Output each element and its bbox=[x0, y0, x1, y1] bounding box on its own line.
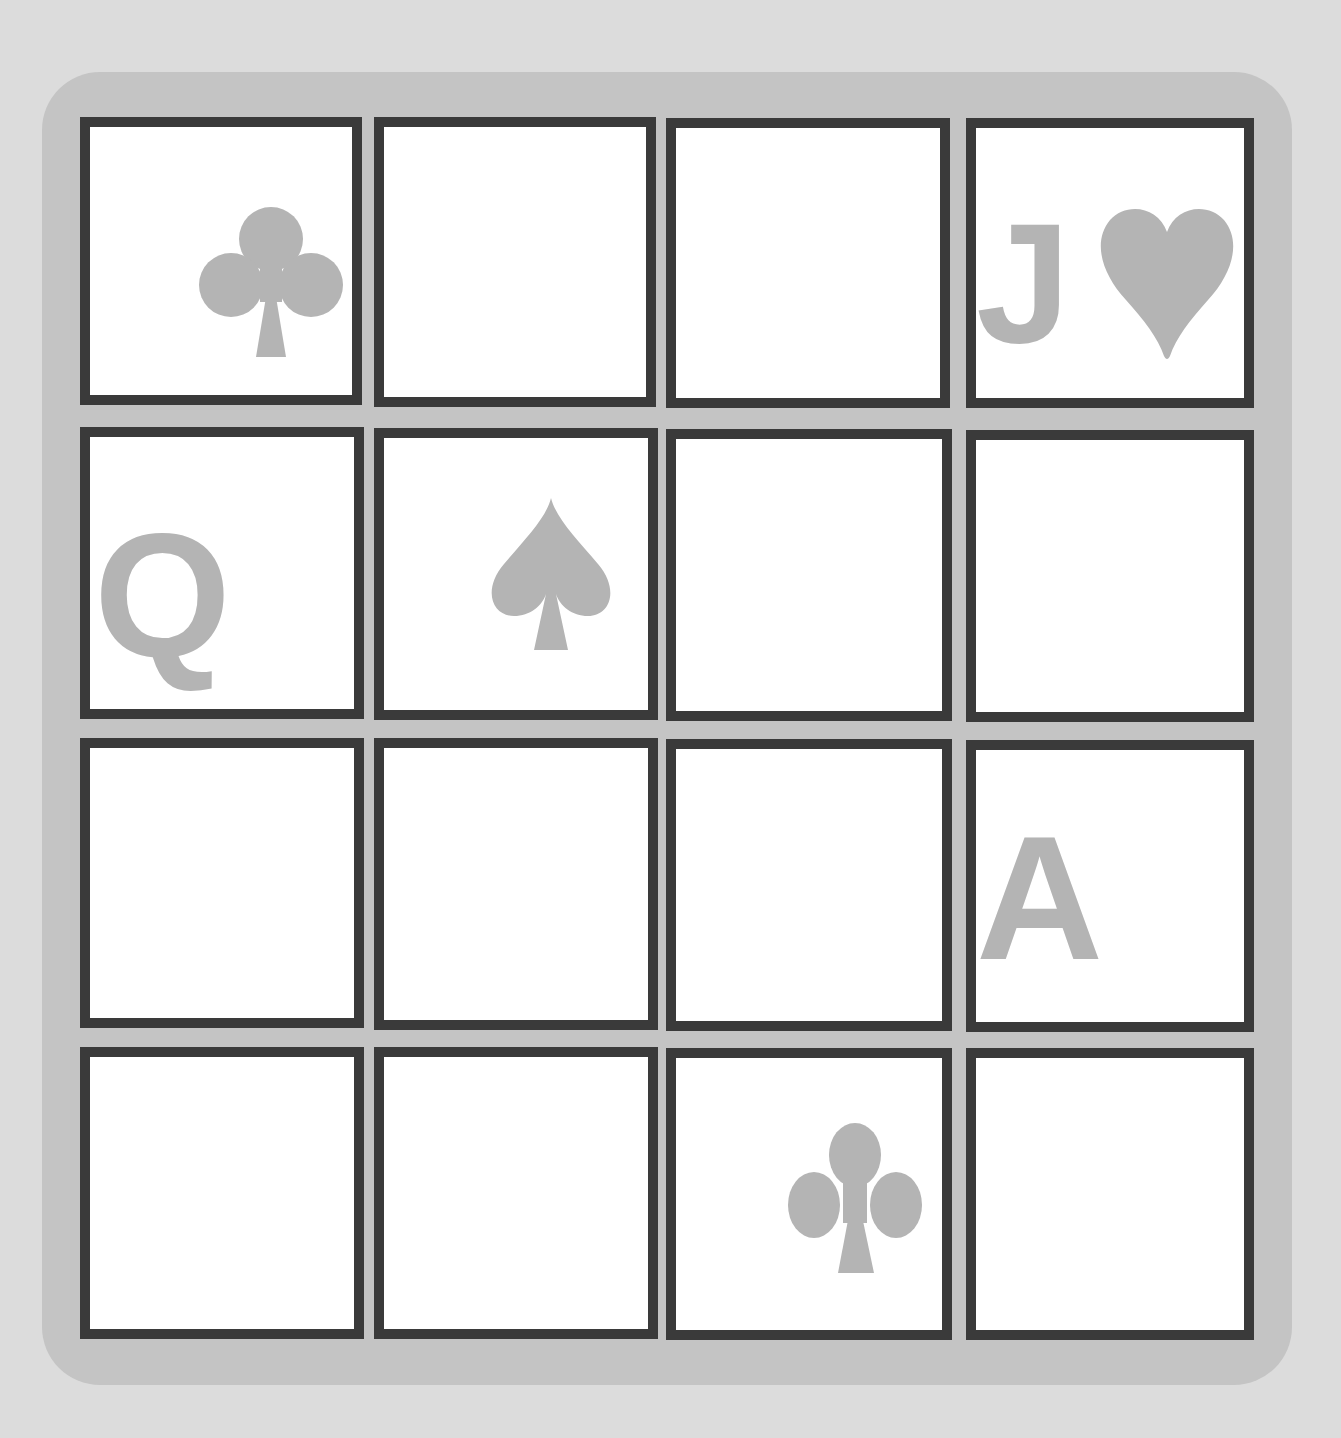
cell-r2-c3[interactable]: A bbox=[966, 740, 1254, 1032]
cell-r3-c2[interactable] bbox=[666, 1048, 952, 1340]
cell-r1-c1[interactable] bbox=[374, 428, 658, 720]
club-icon bbox=[198, 207, 348, 362]
cell-r0-c0[interactable] bbox=[80, 117, 362, 405]
cell-r0-c2[interactable] bbox=[666, 118, 950, 408]
card-rank-label: Q bbox=[94, 507, 231, 683]
cell-r0-c3[interactable]: J bbox=[966, 118, 1254, 408]
cell-r3-c1[interactable] bbox=[374, 1047, 658, 1339]
cell-r0-c1[interactable] bbox=[374, 117, 656, 407]
cell-r2-c1[interactable] bbox=[374, 738, 658, 1030]
cell-r1-c3[interactable] bbox=[966, 430, 1254, 722]
cell-r3-c0[interactable] bbox=[80, 1047, 364, 1339]
club-icon bbox=[780, 1123, 930, 1278]
cell-r1-c0[interactable]: Q bbox=[80, 427, 364, 719]
game-board: J Q A bbox=[42, 72, 1292, 1385]
heart-icon bbox=[1098, 202, 1236, 360]
cell-r1-c2[interactable] bbox=[666, 429, 952, 721]
card-rank-label: J bbox=[976, 198, 1071, 368]
cell-r3-c3[interactable] bbox=[966, 1048, 1254, 1340]
cell-r2-c0[interactable] bbox=[80, 738, 364, 1028]
card-rank-label: A bbox=[976, 810, 1103, 986]
cell-r2-c2[interactable] bbox=[666, 739, 952, 1031]
spade-icon bbox=[486, 498, 616, 654]
